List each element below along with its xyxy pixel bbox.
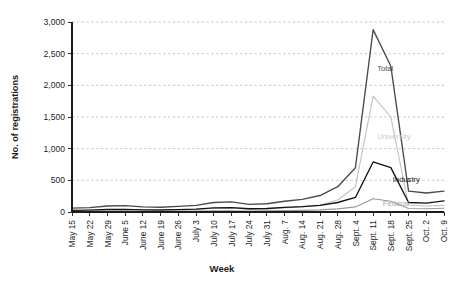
x-tick-label: June 5 (120, 220, 130, 245)
x-tick-label: Sept. 11 (368, 220, 378, 251)
x-tick-label: Sept. 4 (351, 220, 361, 247)
x-tick-label: June 26 (173, 220, 183, 250)
x-tick-label: May 15 (67, 220, 77, 248)
x-axis-ticks-group: May 15May 22May 29June 5June 12June 19Ju… (67, 212, 449, 251)
series-label-total: Total (377, 64, 393, 73)
x-tick-label: Oct. 2 (421, 220, 431, 243)
y-tick-label: 500 (51, 175, 66, 185)
x-tick-label: June 12 (138, 220, 148, 250)
x-tick-label: Aug. 21 (315, 220, 325, 249)
x-tick-label: May 22 (85, 220, 95, 248)
x-tick-label: July 10 (209, 220, 219, 247)
y-tick-label: 2,500 (43, 49, 65, 59)
x-tick-label: May 29 (103, 220, 113, 248)
x-tick-label: July 3 (191, 220, 201, 242)
line-chart: 05001,0001,5002,0002,5003,000 May 15May … (0, 0, 449, 286)
gridlines-group (72, 22, 444, 212)
y-tick-label: 1,000 (43, 144, 65, 154)
series-label-industry: Industry (393, 175, 420, 184)
series-lines-group (72, 30, 444, 212)
x-tick-label: Sept. 18 (386, 220, 396, 252)
x-tick-label: Aug. 7 (280, 220, 290, 245)
x-tick-label: July 17 (227, 220, 237, 247)
y-tick-label: 3,000 (43, 17, 65, 27)
series-label-federal: Federal (383, 199, 409, 208)
x-tick-label: Sept. 25 (404, 220, 414, 252)
y-tick-label: 1,500 (43, 112, 65, 122)
y-axis-ticks-group: 05001,0001,5002,0002,5003,000 (43, 17, 72, 217)
series-label-university: University (377, 132, 411, 141)
x-tick-label: July 24 (244, 220, 254, 247)
x-tick-label: Aug. 28 (333, 220, 343, 249)
y-tick-label: 0 (60, 207, 65, 217)
x-tick-label: June 19 (156, 220, 166, 250)
x-tick-label: Oct. 9 (439, 220, 449, 243)
series-line-total (72, 30, 444, 209)
x-axis-title: Week (210, 263, 236, 274)
y-tick-label: 2,000 (43, 80, 65, 90)
axes-group (72, 22, 444, 212)
x-tick-label: Aug. 14 (297, 220, 307, 249)
x-tick-label: July 31 (262, 220, 272, 247)
chart-figure: 05001,0001,5002,0002,5003,000 May 15May … (0, 0, 449, 286)
series-line-university (72, 96, 444, 211)
y-axis-title: No. of registrations (10, 75, 20, 159)
